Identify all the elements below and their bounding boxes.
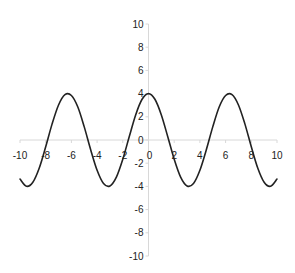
y-tick-label: 8 bbox=[138, 42, 144, 53]
y-tick-label: -4 bbox=[135, 181, 144, 192]
y-tick-label: -6 bbox=[135, 204, 144, 215]
x-tick-label: 0 bbox=[147, 150, 153, 161]
line-chart: 1086420-2-4-6-8-10 -10-8-6-4-22468100 bbox=[0, 0, 295, 273]
x-tick-label: -6 bbox=[67, 150, 76, 161]
x-tick-label: 6 bbox=[223, 150, 229, 161]
x-tick-label: -10 bbox=[13, 150, 28, 161]
x-tick-labels: -10-8-6-4-22468100 bbox=[13, 150, 283, 161]
y-tick-label: 2 bbox=[138, 111, 144, 122]
x-axis bbox=[20, 140, 277, 143]
x-tick-label: 4 bbox=[197, 150, 203, 161]
x-tick-label: 10 bbox=[271, 150, 283, 161]
y-tick-label: 0 bbox=[138, 135, 144, 146]
y-tick-label: -2 bbox=[135, 158, 144, 169]
y-tick-label: 6 bbox=[138, 65, 144, 76]
y-tick-label: 10 bbox=[132, 19, 144, 30]
y-tick-label: -10 bbox=[129, 251, 144, 262]
y-tick-label: -8 bbox=[135, 227, 144, 238]
